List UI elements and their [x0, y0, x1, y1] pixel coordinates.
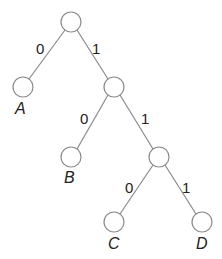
node-n2 — [104, 77, 124, 97]
node-label-C: C — [108, 235, 120, 252]
node-B — [61, 147, 81, 167]
node-A — [13, 77, 33, 97]
edge-n3-D — [165, 165, 196, 214]
edge-label-n2-B: 0 — [80, 110, 88, 127]
tree-diagram: 0 1 0 1 0 1 A B C D — [0, 0, 222, 259]
edge-label-n3-C: 0 — [125, 179, 133, 196]
node-n3 — [149, 147, 169, 167]
node-label-B: B — [64, 169, 75, 186]
node-root — [61, 12, 81, 32]
edge-label-root-A: 0 — [36, 40, 44, 57]
edge-label-n3-D: 1 — [182, 179, 190, 196]
node-label-D: D — [196, 235, 208, 252]
edge-label-n2-n3: 1 — [141, 110, 149, 127]
node-D — [192, 212, 212, 232]
node-label-A: A — [14, 100, 26, 117]
node-C — [104, 212, 124, 232]
edge-label-root-n2: 1 — [92, 40, 100, 57]
edge-root-A — [29, 30, 65, 79]
